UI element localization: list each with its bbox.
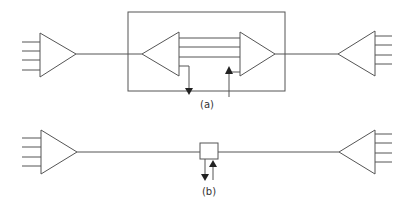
- panel-b-drop-arrow-icon: [201, 159, 209, 181]
- panel-a-label: (a): [200, 99, 214, 110]
- panel-a-output-lines: [375, 36, 392, 64]
- panel-b-add-drop-box: [200, 143, 218, 159]
- panel-b: (b): [22, 130, 392, 197]
- panel-b-output-lines: [375, 134, 392, 162]
- panel-a-right-amplifier-icon: [338, 31, 375, 76]
- panel-a-inner-right-amplifier-icon: [240, 32, 275, 76]
- panel-a: (a): [22, 12, 392, 110]
- panel-b-left-amplifier-icon: [41, 130, 77, 174]
- panel-a-parallel-lines: [179, 38, 240, 57]
- panel-b-input-lines: [22, 138, 41, 166]
- panel-b-label: (b): [202, 186, 216, 197]
- diagram-canvas: (a) (b): [0, 0, 411, 205]
- panel-a-inner-left-amplifier-icon: [142, 32, 179, 76]
- panel-a-add-arrow-icon: [225, 66, 240, 97]
- panel-a-left-amplifier-icon: [40, 33, 76, 77]
- panel-a-input-lines: [22, 42, 40, 70]
- panel-b-right-amplifier-icon: [339, 130, 375, 174]
- panel-b-add-arrow-icon: [209, 160, 217, 180]
